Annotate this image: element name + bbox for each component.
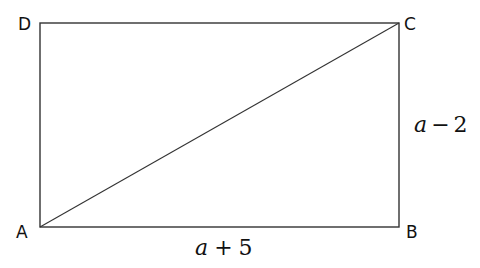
side-bc-variable: a (414, 112, 427, 137)
side-bc-number: 2 (454, 112, 468, 137)
vertex-label-a: A (16, 222, 28, 242)
side-label-ab: a+5 (195, 235, 253, 260)
side-bc-operator: − (431, 112, 449, 137)
side-label-bc: a−2 (414, 112, 468, 137)
side-ab-variable: a (195, 235, 208, 260)
vertex-label-d: D (18, 14, 31, 34)
vertex-label-c: C (404, 14, 416, 34)
diagonal-ac (40, 23, 399, 227)
rectangle-diagram: D C A B a−2 a+5 (0, 0, 480, 268)
side-ab-number: 5 (239, 235, 253, 260)
side-ab-operator: + (214, 235, 232, 260)
vertex-label-b: B (406, 222, 418, 242)
